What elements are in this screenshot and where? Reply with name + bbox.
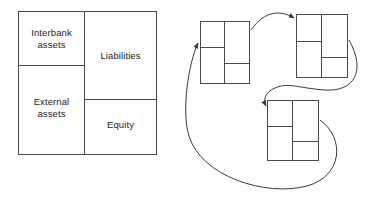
node1-assets-internal-divider [201,47,225,48]
bank-node-1 [200,21,250,84]
interbank-network [185,0,369,197]
node2-assets-liabilities-divider [321,15,322,77]
bank-node-2 [296,14,348,78]
node3-liabilities-equity-divider [292,141,318,142]
node3-assets-liabilities-divider [292,101,293,160]
node3-assets-internal-divider [268,126,293,127]
node2-assets-internal-divider [297,41,322,42]
external-assets-cell: External assets [19,66,84,149]
figure-canvas: Interbank assets External assets Liabili… [0,0,369,197]
equity-cell: Equity [85,100,156,149]
liabilities-cell: Liabilities [85,12,156,99]
interbank-assets-cell: Interbank assets [19,12,84,65]
edge-bank1-to-bank2 [251,13,294,30]
bank-balance-sheet: Interbank assets External assets Liabili… [18,11,157,155]
node2-liabilities-equity-divider [321,57,347,58]
node1-liabilities-equity-divider [224,63,249,64]
bank-node-3 [267,100,319,161]
node1-assets-liabilities-divider [224,22,225,83]
